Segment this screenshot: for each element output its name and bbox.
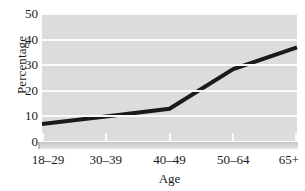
gridline-y-30 <box>42 64 297 66</box>
x-tick-mark-2 <box>169 133 171 142</box>
x-tick-label-0: 18–29 <box>32 152 65 168</box>
plot-area <box>42 14 297 142</box>
series-line-percentage <box>42 14 297 142</box>
x-tick-mark-1 <box>105 133 107 142</box>
x-tick-label-1: 30–39 <box>90 152 123 168</box>
y-tick-label-30: 30 <box>16 58 38 71</box>
x-tick-mark-4 <box>295 133 297 142</box>
gridline-y-50 <box>42 13 297 15</box>
x-tick-label-3: 50–64 <box>217 152 250 168</box>
y-tick-label-10: 10 <box>16 109 38 122</box>
gridline-y-40 <box>42 39 297 41</box>
x-tick-mark-3 <box>232 133 234 142</box>
y-tick-label-40: 40 <box>16 33 38 46</box>
line-chart-figure: Percentage 50403020100 18–2930–3940–4950… <box>0 0 305 191</box>
y-tick-label-50: 50 <box>16 7 38 20</box>
x-tick-mark-0 <box>42 133 44 142</box>
x-axis-title: Age <box>42 171 297 186</box>
series-polyline <box>42 47 297 124</box>
x-tick-label-2: 40–49 <box>153 152 186 168</box>
gridline-y-20 <box>42 90 297 92</box>
x-axis-tick-labels: 18–2930–3940–4950–6465+ <box>42 152 297 170</box>
gridline-y-10 <box>42 115 297 117</box>
y-tick-label-20: 20 <box>16 84 38 97</box>
plot-floor <box>40 142 298 149</box>
x-tick-label-4: 65+ <box>279 152 299 168</box>
y-tick-label-0: 0 <box>16 135 38 148</box>
